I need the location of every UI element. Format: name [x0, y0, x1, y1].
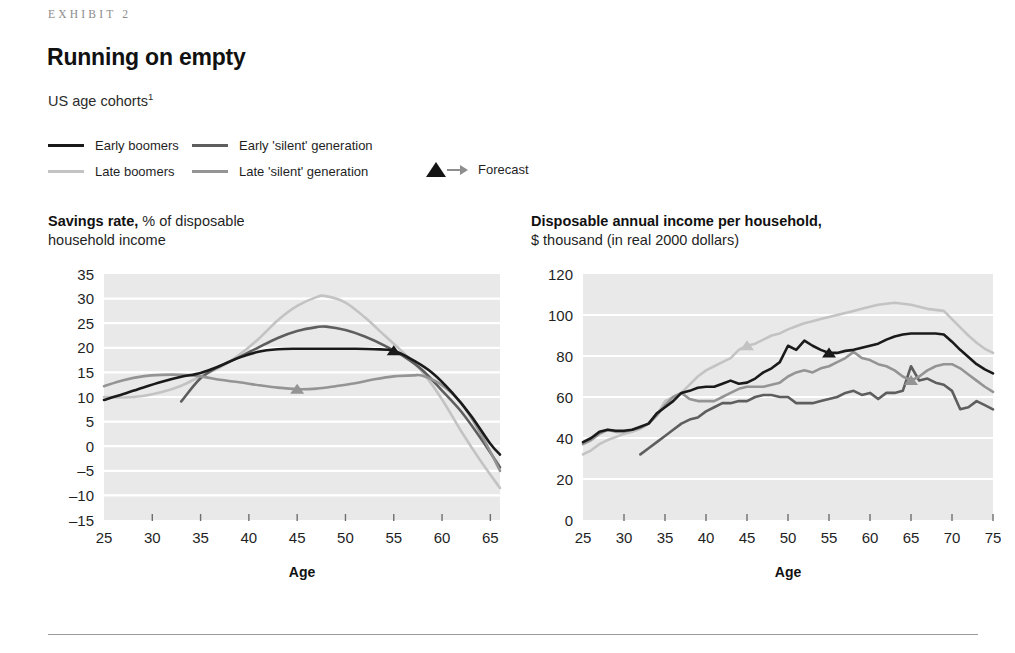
y-tick-label: 5: [86, 413, 94, 430]
legend-item-forecast: Forecast: [426, 162, 529, 177]
plot-area-disposable-income: 1201008060402002530354045505560657075: [531, 264, 1001, 564]
chart-title-bold-savings: Savings rate,: [48, 213, 138, 229]
x-tick-label: 25: [575, 529, 592, 546]
chart-title-disposable-income: Disposable annual income per household, …: [531, 212, 1001, 250]
legend-label-forecast: Forecast: [478, 162, 529, 177]
x-tick-label: 55: [385, 529, 402, 546]
y-tick-label: 60: [556, 389, 573, 406]
x-tick-label: 25: [96, 529, 113, 546]
plot-svg-savings-rate: 35302520151050–5–10–15253035404550556065: [48, 264, 508, 564]
legend-swatch-late-boomers: [48, 170, 84, 173]
x-tick-label: 60: [862, 529, 879, 546]
x-tick-label: 45: [739, 529, 756, 546]
y-tick-label: 120: [548, 266, 573, 283]
legend-item-early-boomers: Early boomers: [48, 134, 179, 156]
y-tick-label: –5: [77, 462, 94, 479]
y-tick-label: 15: [77, 364, 94, 381]
x-tick-label: 55: [821, 529, 838, 546]
legend-label-late-silent: Late 'silent' generation: [239, 165, 368, 178]
x-tick-label: 35: [192, 529, 209, 546]
x-axis-title-savings: Age: [262, 564, 342, 580]
x-tick-label: 35: [657, 529, 674, 546]
forecast-arrow-shaft: [447, 169, 460, 171]
legend: Early boomers Late boomers Early 'silent…: [48, 132, 568, 184]
chart-title-savings-rate: Savings rate, % of disposable household …: [48, 212, 508, 250]
y-tick-label: –10: [69, 487, 94, 504]
x-tick-label: 65: [482, 529, 499, 546]
exhibit-page: EXHIBIT 2 Running on empty US age cohort…: [0, 0, 1015, 653]
y-tick-label: 40: [556, 430, 573, 447]
subtitle: US age cohorts1: [48, 91, 153, 109]
chart-title-bold-income: Disposable annual income per household,: [531, 213, 822, 229]
x-tick-label: 45: [289, 529, 306, 546]
y-tick-label: –15: [69, 512, 94, 529]
legend-swatch-early-boomers: [48, 144, 84, 147]
y-tick-label: 25: [77, 315, 94, 332]
plot-area-savings-rate: 35302520151050–5–10–15253035404550556065: [48, 264, 508, 564]
subtitle-text: US age cohorts: [48, 93, 148, 109]
y-tick-label: 20: [556, 471, 573, 488]
legend-swatch-late-silent: [192, 170, 228, 173]
y-tick-label: 0: [565, 512, 573, 529]
x-tick-label: 30: [144, 529, 161, 546]
legend-item-late-silent: Late 'silent' generation: [192, 160, 368, 182]
legend-label-early-boomers: Early boomers: [95, 139, 179, 152]
y-tick-label: 35: [77, 266, 94, 283]
x-tick-label: 50: [337, 529, 354, 546]
legend-label-early-silent: Early 'silent' generation: [239, 139, 373, 152]
x-tick-label: 40: [241, 529, 258, 546]
legend-item-late-boomers: Late boomers: [48, 160, 175, 182]
y-tick-label: 10: [77, 389, 94, 406]
chart-disposable-income: Disposable annual income per household, …: [531, 212, 1001, 564]
y-tick-label: 80: [556, 348, 573, 365]
exhibit-label: EXHIBIT 2: [48, 8, 131, 20]
x-tick-label: 75: [985, 529, 1001, 546]
chart-title-rest-savings: % of disposable: [138, 213, 244, 229]
y-tick-label: 100: [548, 307, 573, 324]
page-title: Running on empty: [47, 44, 246, 71]
chart-subtitle-income: $ thousand (in real 2000 dollars): [531, 232, 739, 248]
x-tick-label: 70: [944, 529, 961, 546]
forecast-triangle-icon: [426, 162, 446, 177]
x-tick-label: 30: [616, 529, 633, 546]
y-tick-label: 30: [77, 290, 94, 307]
legend-label-late-boomers: Late boomers: [95, 165, 175, 178]
forecast-arrow-head: [460, 165, 468, 175]
chart-savings-rate: Savings rate, % of disposable household …: [48, 212, 508, 564]
y-tick-label: 20: [77, 339, 94, 356]
x-tick-label: 65: [903, 529, 920, 546]
forecast-arrow-icon: [447, 165, 468, 175]
x-tick-label: 60: [434, 529, 451, 546]
legend-swatch-early-silent: [192, 144, 228, 147]
chart-subtitle-savings: household income: [48, 232, 166, 248]
footer-divider: [48, 634, 978, 635]
subtitle-footnote-marker: 1: [148, 91, 153, 102]
x-tick-label: 50: [780, 529, 797, 546]
x-tick-label: 40: [698, 529, 715, 546]
y-tick-label: 0: [86, 438, 94, 455]
plot-svg-disposable-income: 1201008060402002530354045505560657075: [531, 264, 1001, 564]
legend-item-early-silent: Early 'silent' generation: [192, 134, 373, 156]
x-axis-title-income: Age: [748, 564, 828, 580]
